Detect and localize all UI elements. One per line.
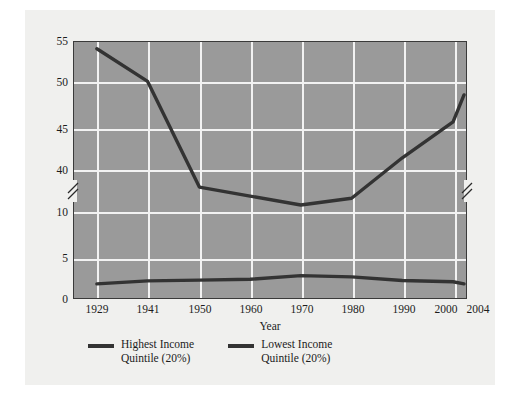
y-tick-40: 40	[38, 165, 68, 177]
y-axis-tick-labels: 55 50 45 40 10 5 0	[38, 0, 68, 401]
legend-label-lowest: Lowest IncomeQuintile (20%)	[261, 338, 332, 365]
x-tick-2004: 2004	[467, 303, 490, 315]
y-tick-0: 0	[38, 294, 68, 306]
x-tick-1929: 1929	[86, 303, 109, 315]
y-tick-50: 50	[38, 77, 68, 89]
y-tick-5: 5	[38, 253, 68, 265]
x-tick-1960: 1960	[240, 303, 263, 315]
legend-label-highest-line2: Quintile (20%)	[121, 352, 190, 364]
plot-area	[73, 41, 467, 299]
series-line-lowest-income-quintile	[97, 276, 464, 284]
legend-item-highest-income-quintile[interactable]: Highest IncomeQuintile (20%)	[88, 338, 194, 365]
legend-label-highest-line1: Highest Income	[121, 338, 194, 350]
x-tick-1980: 1980	[342, 303, 365, 315]
x-tick-1950: 1950	[189, 303, 212, 315]
figure-root: 55 50 45 40 10 5 0 Percent of Total Fami…	[0, 0, 516, 401]
legend-line-swatch-icon	[228, 344, 254, 348]
legend-label-lowest-line2: Quintile (20%)	[261, 352, 330, 364]
x-tick-1970: 1970	[291, 303, 314, 315]
legend-line-swatch-icon	[88, 344, 114, 348]
series-lines	[74, 42, 466, 298]
y-axis-break-left-icon	[65, 180, 81, 202]
y-axis-break-right-icon	[459, 180, 475, 202]
legend-item-lowest-income-quintile[interactable]: Lowest IncomeQuintile (20%)	[228, 338, 332, 365]
y-tick-10: 10	[38, 207, 68, 219]
x-axis-title: Year	[73, 320, 467, 332]
series-line-highest-income-quintile	[97, 49, 464, 205]
x-tick-2000: 2000	[435, 303, 458, 315]
y-tick-55: 55	[38, 36, 68, 48]
legend-label-lowest-line1: Lowest Income	[261, 338, 332, 350]
x-tick-1941: 1941	[137, 303, 160, 315]
chart-legend: Highest IncomeQuintile (20%) Lowest Inco…	[88, 338, 332, 365]
legend-label-highest: Highest IncomeQuintile (20%)	[121, 338, 194, 365]
x-tick-1990: 1990	[393, 303, 416, 315]
y-tick-45: 45	[38, 124, 68, 136]
